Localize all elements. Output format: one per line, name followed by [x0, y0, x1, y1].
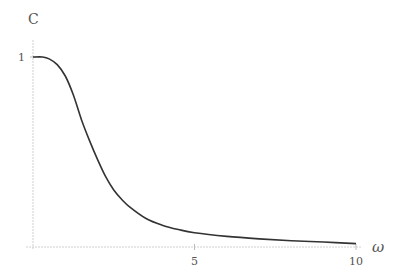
y-axis-label: C — [28, 11, 39, 27]
x-ticks: 510 — [191, 244, 363, 268]
x-axis-label: ω — [372, 238, 384, 256]
x-tick-label: 10 — [349, 255, 363, 268]
y-tick-label: 1 — [18, 51, 25, 64]
line-chart: 510 1 C ω — [0, 0, 404, 276]
x-tick-label: 5 — [191, 255, 198, 268]
data-series-line — [33, 57, 356, 244]
